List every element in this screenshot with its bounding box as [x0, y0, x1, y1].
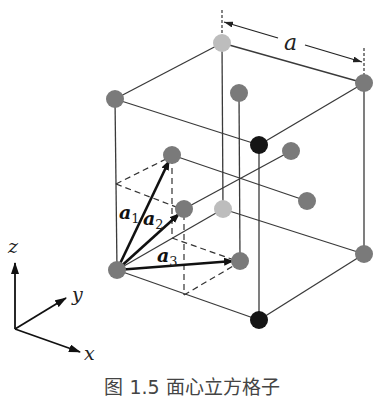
atom-back-face-center	[298, 192, 316, 210]
y-axis-label: y	[71, 283, 83, 305]
z-axis-label: z	[7, 235, 19, 257]
atom-top-back-left	[213, 34, 231, 52]
lattice-constant-dimension: a	[222, 10, 364, 76]
atom-top-back-right	[355, 74, 373, 92]
atom-bottom-back-left	[214, 200, 232, 218]
y-axis-arrow	[15, 298, 66, 329]
coordinate-axes: z y x	[7, 235, 95, 364]
x-axis-arrow	[15, 329, 80, 352]
atom-bottom-front-right	[250, 311, 268, 329]
atom-right-face-center	[282, 142, 300, 160]
atom-top-front-left	[106, 90, 124, 108]
primitive-vectors: a1 a2 a3	[117, 161, 233, 270]
atom-bottom-face-center	[231, 252, 249, 270]
x-axis-label: x	[84, 342, 95, 364]
vector-a3-label: a3	[157, 244, 178, 269]
vector-a2-label: a2	[143, 207, 164, 232]
atom-front-face-center	[163, 146, 181, 164]
atom-bottom-back-right	[355, 245, 373, 263]
atom-origin	[108, 261, 126, 279]
atom-top-front-right	[250, 136, 268, 154]
vector-a1-label: a1	[119, 201, 140, 226]
atom-left-face-center	[175, 200, 193, 218]
figure-caption: 图 1.5 面心立方格子	[0, 372, 384, 399]
lattice-constant-label: a	[284, 30, 297, 55]
atom-top-face-center	[230, 84, 248, 102]
